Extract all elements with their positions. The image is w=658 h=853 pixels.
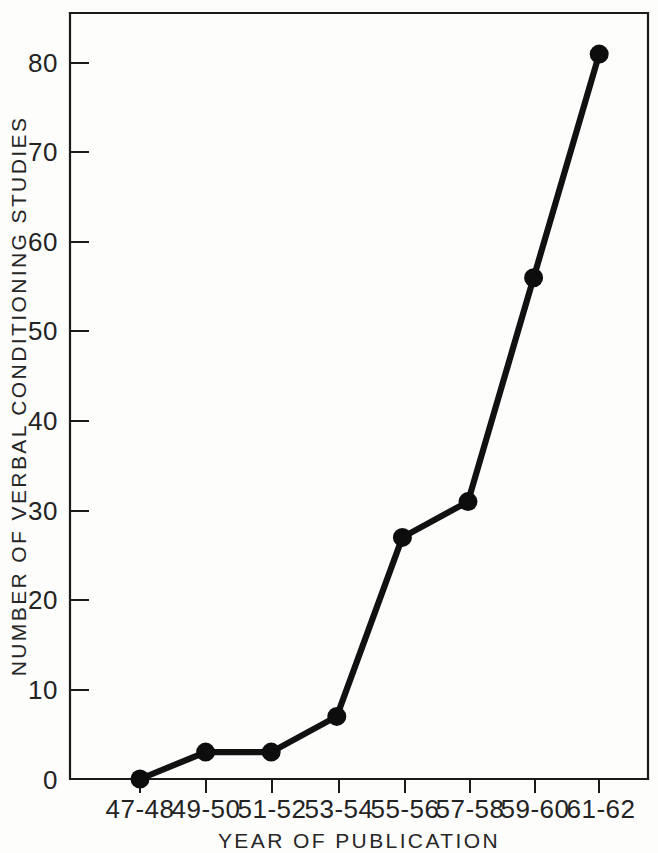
x-tick-label-2: 51-52 [238, 794, 307, 824]
x-tick-label-1: 49-50 [172, 794, 241, 824]
y-tick-label-10: 10 [28, 675, 58, 705]
x-tick-label-7: 61-62 [567, 794, 636, 824]
y-axis-title: NUMBER OF VERBAL CONDITIONING STUDIES [7, 116, 30, 677]
y-tick-label-0: 0 [43, 765, 58, 795]
y-tick-label-50: 50 [28, 316, 58, 346]
data-point-51-52 [262, 743, 281, 762]
x-tick-label-5: 57-58 [436, 794, 505, 824]
y-axis-ticks [70, 63, 89, 690]
data-point-47-48 [131, 770, 150, 789]
y-tick-label-20: 20 [28, 585, 58, 615]
x-axis-tick-labels: 47-48 49-50 51-52 53-54 55-56 57-58 59-6… [106, 794, 636, 824]
x-tick-label-0: 47-48 [106, 794, 175, 824]
data-series-line [140, 54, 599, 779]
y-axis-tick-labels: 80 70 60 50 40 30 20 10 0 [28, 48, 58, 795]
x-axis-title: YEAR OF PUBLICATION [218, 829, 500, 852]
x-tick-label-6: 59-60 [501, 794, 570, 824]
x-axis-ticks [140, 779, 599, 793]
data-point-61-62 [590, 45, 609, 64]
data-point-59-60 [524, 268, 543, 287]
y-tick-label-40: 40 [28, 406, 58, 436]
x-tick-label-4: 55-56 [371, 794, 440, 824]
x-tick-label-3: 53-54 [305, 794, 374, 824]
data-point-49-50 [196, 743, 215, 762]
data-point-55-56 [393, 528, 412, 547]
y-tick-label-60: 60 [28, 227, 58, 257]
data-point-markers [131, 45, 609, 789]
data-point-53-54 [327, 707, 346, 726]
chart-figure: 80 70 60 50 40 30 20 10 0 47-48 49-50 51… [0, 0, 658, 853]
y-tick-label-30: 30 [28, 496, 58, 526]
y-tick-label-80: 80 [28, 48, 58, 78]
line-chart: 80 70 60 50 40 30 20 10 0 47-48 49-50 51… [0, 0, 658, 853]
data-point-57-58 [459, 492, 478, 511]
y-tick-label-70: 70 [28, 137, 58, 167]
